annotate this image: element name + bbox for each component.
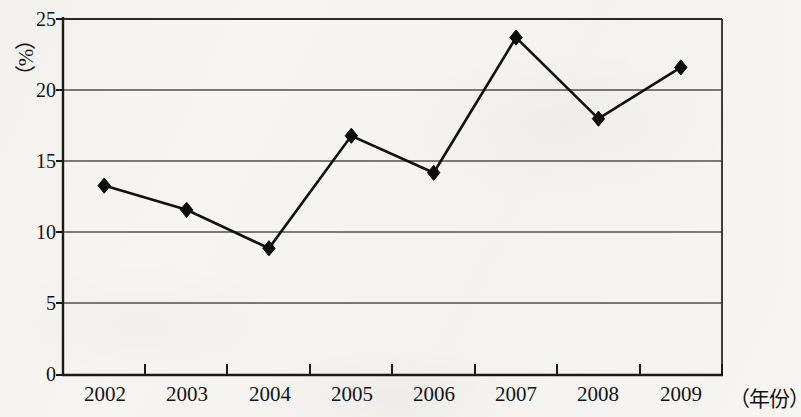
x-tick-label-2008: 2008 (577, 382, 619, 407)
x-tick-label-2003: 2003 (166, 382, 208, 407)
x-axis-ticks (63, 364, 722, 375)
axis-frame (62, 17, 723, 376)
y-tick-label-15: 15 (20, 151, 56, 171)
y-tick-label-10: 10 (20, 222, 56, 242)
x-axis-tick-labels: 2002 2003 2004 2005 2006 2007 2008 2009 (0, 382, 785, 416)
y-tick-label-25: 25 (20, 9, 56, 29)
y-tick-label-20: 20 (20, 80, 56, 100)
x-tick-label-2002: 2002 (84, 382, 126, 407)
y-tick-label-5: 5 (20, 293, 56, 313)
data-point-marker-2002 (98, 178, 110, 193)
x-tick-label-2004: 2004 (249, 382, 291, 407)
x-tick-label-2005: 2005 (331, 382, 373, 407)
data-line-series (104, 38, 681, 249)
x-axis-title: （年份） (729, 382, 801, 412)
x-tick-label-2006: 2006 (413, 382, 455, 407)
gridlines (63, 90, 722, 303)
x-tick-label-2007: 2007 (495, 382, 537, 407)
y-axis-tick-labels: 25 20 15 10 5 0 (10, 0, 56, 417)
data-point-markers (98, 30, 687, 256)
x-tick-label-2009: 2009 (660, 382, 702, 407)
y-tick-label-0: 0 (20, 364, 56, 384)
data-point-marker-2003 (180, 202, 192, 217)
data-point-marker-2009 (675, 60, 687, 75)
